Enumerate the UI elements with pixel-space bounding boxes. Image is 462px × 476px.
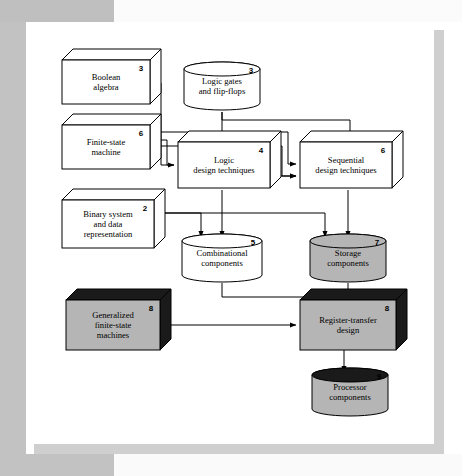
node-label: algebra — [93, 82, 118, 92]
box-top-face — [62, 49, 161, 60]
edge-binary-to-storage — [156, 213, 325, 237]
node-label: Combinational — [196, 248, 248, 258]
node-label: Processor — [333, 382, 367, 392]
node-label: machines — [97, 330, 130, 340]
node-storage-components[interactable]: Storagecomponents7 — [310, 234, 386, 282]
chapter-number: 4 — [259, 146, 264, 155]
node-label: Logic — [214, 155, 234, 165]
node-label: Sequential — [328, 155, 365, 165]
chapter-number: 8 — [385, 304, 390, 313]
node-boolean-algebra[interactable]: Booleanalgebra3 — [62, 49, 161, 104]
figure-frame: Booleanalgebra3Logic gatesand flip-flops… — [0, 0, 462, 476]
node-label: design techniques — [193, 165, 255, 175]
box-top-face — [300, 131, 403, 142]
node-combinational-components[interactable]: Combinationalcomponents5 — [182, 234, 262, 282]
node-label: machine — [91, 147, 120, 157]
node-label: Binary system — [83, 209, 133, 219]
box-top-face — [300, 289, 407, 300]
chapter-number: 2 — [143, 204, 148, 213]
box-side-face — [154, 189, 165, 248]
node-processor-components[interactable]: Processorcomponents9 — [312, 368, 388, 416]
node-register-transfer-design[interactable]: Register-transferdesign8 — [300, 289, 407, 350]
node-sequential-design-techniques[interactable]: Sequentialdesign techniques6 — [300, 131, 403, 188]
node-logic-gates-flipflops[interactable]: Logic gatesand flip-flops3 — [184, 62, 260, 110]
node-label: design techniques — [315, 165, 377, 175]
box-top-face — [62, 114, 161, 125]
node-layer: Booleanalgebra3Logic gatesand flip-flops… — [62, 49, 407, 416]
node-generalized-finite-state-machines[interactable]: Generalizedfinite-statemachines8 — [66, 289, 171, 350]
chapter-number: 3 — [249, 66, 254, 75]
node-label: finite-state — [95, 320, 132, 330]
node-label: components — [329, 392, 371, 402]
box-top-face — [66, 289, 171, 300]
chapter-number: 7 — [375, 238, 380, 247]
box-top-face — [62, 189, 165, 200]
chapter-number: 9 — [377, 372, 382, 381]
node-label: Boolean — [92, 72, 121, 82]
chapter-number: 6 — [139, 129, 144, 138]
node-label: components — [201, 258, 243, 268]
box-top-face — [178, 131, 281, 142]
node-label: Generalized — [92, 310, 134, 320]
node-label: design — [337, 325, 360, 335]
node-label: and data — [94, 219, 123, 229]
node-label: Storage — [335, 248, 361, 258]
node-logic-design-techniques[interactable]: Logicdesign techniques4 — [178, 131, 281, 188]
box-side-face — [160, 289, 171, 350]
diagram-canvas: Booleanalgebra3Logic gatesand flip-flops… — [0, 0, 462, 476]
node-label: Finite-state — [87, 137, 126, 147]
chapter-number: 5 — [251, 238, 256, 247]
node-label: Register-transfer — [319, 315, 377, 325]
node-label: and flip-flops — [199, 86, 246, 96]
box-side-face — [396, 289, 407, 350]
chapter-number: 3 — [139, 64, 144, 73]
node-label: components — [327, 258, 369, 268]
node-finite-state-machine[interactable]: Finite-statemachine6 — [62, 114, 161, 169]
node-label: representation — [84, 229, 133, 239]
node-label: Logic gates — [202, 76, 243, 86]
chapter-number: 8 — [149, 304, 154, 313]
node-binary-system-data-representation[interactable]: Binary systemand datarepresentation2 — [62, 189, 165, 248]
chapter-number: 6 — [381, 146, 386, 155]
